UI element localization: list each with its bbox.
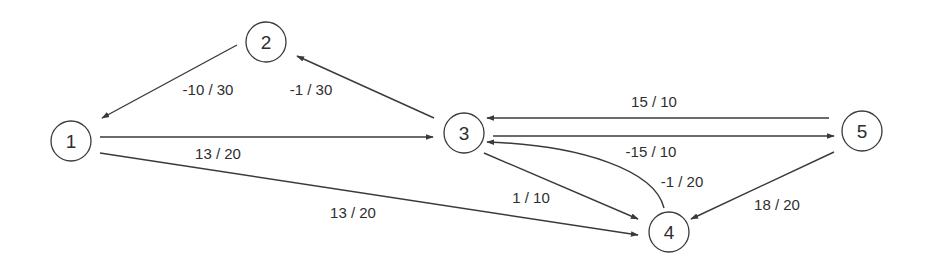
edge-3-to-4 [484, 153, 638, 219]
edge-label-4-to-3: -1 / 20 [661, 173, 704, 190]
edge-label-5-to-3: 15 / 10 [631, 93, 677, 110]
node-2: 2 [246, 22, 286, 62]
edge-label-5-to-4: 18 / 20 [754, 196, 800, 213]
edge-label-3-to-5: -15 / 10 [626, 143, 677, 160]
graph-canvas: -10 / 30 -1 / 30 13 / 20 13 / 20 15 / 10… [0, 0, 928, 279]
node-3-label: 3 [459, 123, 470, 144]
edge-label-2-to-1: -10 / 30 [183, 81, 234, 98]
edge-1-to-4 [100, 153, 638, 235]
node-3: 3 [444, 113, 484, 153]
node-5-label: 5 [857, 121, 868, 142]
node-5: 5 [842, 111, 882, 151]
edge-label-3-to-2: -1 / 30 [290, 81, 333, 98]
node-1-label: 1 [66, 131, 77, 152]
edge-labels: -10 / 30 -1 / 30 13 / 20 13 / 20 15 / 10… [183, 81, 800, 221]
node-4-label: 4 [664, 222, 675, 243]
edge-label-3-to-4: 1 / 10 [512, 189, 550, 206]
edge-label-1-to-4: 13 / 20 [330, 204, 376, 221]
node-1: 1 [51, 121, 91, 161]
edge-label-1-to-3: 13 / 20 [195, 145, 241, 162]
node-4: 4 [649, 212, 689, 252]
node-2-label: 2 [261, 32, 272, 53]
